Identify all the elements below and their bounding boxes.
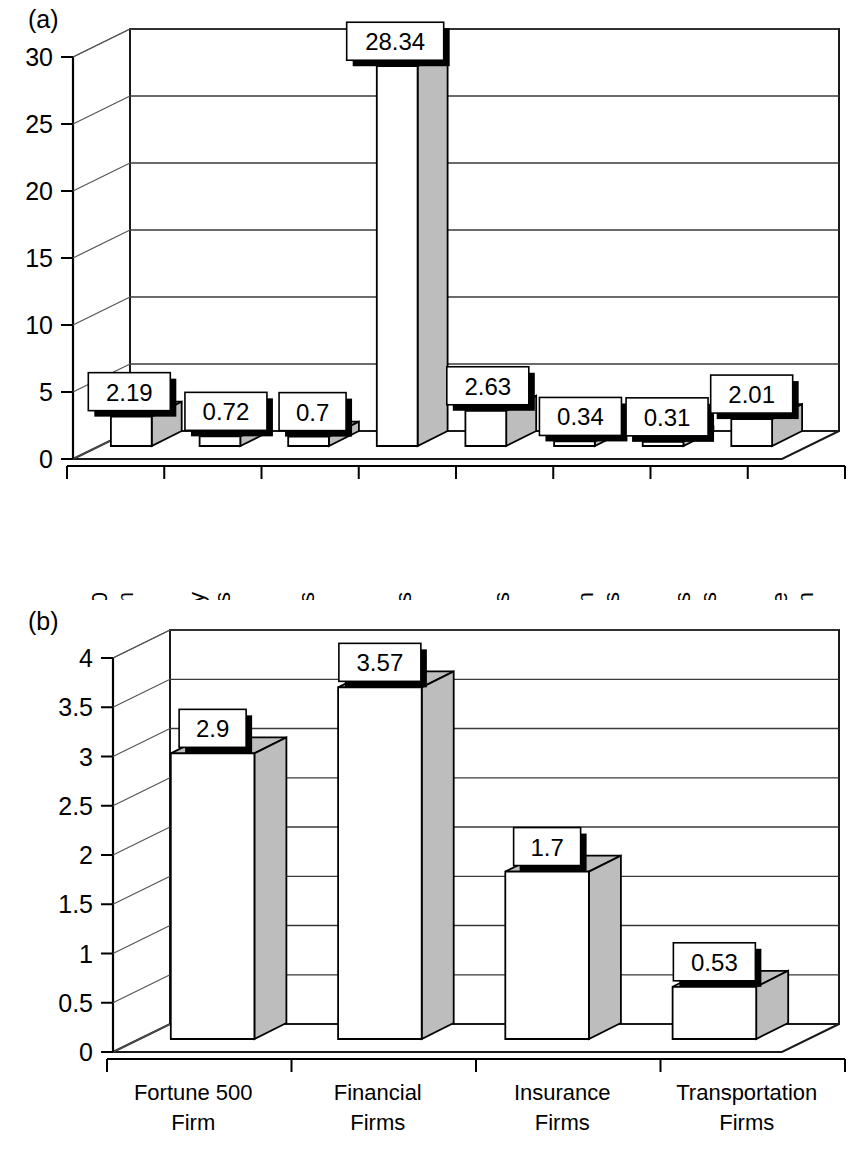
y-tick-label: 4 bbox=[79, 644, 93, 672]
category-label-line: Communications bbox=[670, 592, 695, 600]
value-callout-4: 0.53 bbox=[673, 943, 761, 987]
category-label-5: Insurance Firms bbox=[489, 592, 514, 600]
bar-front-face bbox=[554, 441, 595, 446]
gridline-depth bbox=[113, 778, 170, 806]
value-callout-2: 3.57 bbox=[339, 643, 427, 687]
bar-front-face bbox=[377, 66, 418, 446]
figure-page: 0510152025302.190.720.728.342.630.340.31… bbox=[0, 0, 863, 1161]
category-label-8: Southern StateLocation bbox=[767, 592, 818, 600]
category-label-1: Fortune 500Firm bbox=[87, 592, 138, 600]
y-tick-label: 2.5 bbox=[58, 792, 93, 820]
value-label: 2.19 bbox=[106, 379, 153, 406]
bar-side-face bbox=[589, 856, 621, 1039]
bar-front-face bbox=[200, 436, 241, 446]
value-label: 0.34 bbox=[557, 403, 604, 430]
category-label-line: Firms bbox=[719, 1110, 774, 1135]
category-label-4: Financial Firms bbox=[391, 592, 416, 600]
y-tick-label: 0 bbox=[79, 1038, 93, 1066]
bar-side-face bbox=[418, 51, 448, 446]
gridline-depth bbox=[73, 230, 130, 258]
category-label-3: Utilities Firms bbox=[294, 592, 319, 600]
category-label-line: Firm bbox=[113, 592, 138, 600]
value-callout-3: 1.7 bbox=[514, 828, 587, 872]
y-tick-label: 5 bbox=[39, 378, 53, 406]
category-label-line: Firms bbox=[535, 1110, 590, 1135]
gridline-depth bbox=[73, 29, 130, 57]
value-callout-1: 2.19 bbox=[88, 373, 176, 417]
panel-letter: (b) bbox=[28, 607, 59, 635]
y-tick-label: 1 bbox=[79, 940, 93, 968]
gridline-depth bbox=[113, 827, 170, 855]
bar-front-face bbox=[643, 442, 684, 446]
floor-left-edge bbox=[113, 1024, 170, 1052]
gridline-depth bbox=[113, 679, 170, 707]
y-axis: 051015202530 bbox=[25, 43, 73, 473]
value-label: 0.72 bbox=[203, 398, 250, 425]
category-label-line: Fortune 500 bbox=[134, 1080, 253, 1105]
category-label-line: Insurance Firms bbox=[489, 592, 514, 600]
gridline-depth bbox=[73, 163, 130, 191]
value-label: 3.57 bbox=[357, 649, 404, 676]
x-axis bbox=[107, 1059, 845, 1072]
value-label: 0.31 bbox=[644, 404, 691, 431]
category-label-line: Insurance bbox=[514, 1080, 611, 1105]
gridline-depth bbox=[113, 876, 170, 904]
category-label-line: Utilities Firms bbox=[294, 592, 319, 600]
value-callout-8: 2.01 bbox=[711, 375, 799, 419]
category-label-line: Southern State bbox=[767, 592, 792, 600]
y-tick-label: 20 bbox=[25, 177, 53, 205]
category-label-line: Fortune 500 bbox=[87, 592, 112, 600]
value-label: 28.34 bbox=[365, 28, 425, 55]
bar-front-face bbox=[731, 419, 772, 446]
floor-plane bbox=[73, 431, 839, 459]
bar-front-face bbox=[338, 687, 422, 1039]
category-label-2: FinancialFirms bbox=[334, 1080, 422, 1135]
category-label-3: InsuranceFirms bbox=[514, 1080, 611, 1135]
bar-1 bbox=[171, 737, 287, 1039]
value-label: 2.9 bbox=[196, 715, 229, 742]
gridline-depth bbox=[113, 630, 170, 658]
category-label-6: TransportationFirms bbox=[573, 592, 624, 600]
value-callout-6: 0.34 bbox=[539, 397, 627, 441]
category-label-4: TransportationFirms bbox=[676, 1080, 817, 1135]
value-callout-3: 0.7 bbox=[279, 393, 352, 437]
value-callout-2: 0.72 bbox=[185, 392, 273, 436]
bar-front-face bbox=[505, 872, 589, 1039]
y-axis: 00.511.522.533.54 bbox=[58, 644, 113, 1066]
y-tick-label: 25 bbox=[25, 110, 53, 138]
y-tick-label: 10 bbox=[25, 311, 53, 339]
value-callout-4: 28.34 bbox=[347, 22, 450, 66]
category-label-line: Financial bbox=[334, 1080, 422, 1105]
value-callout-5: 2.63 bbox=[447, 367, 535, 411]
category-label-line: Firms bbox=[210, 592, 235, 600]
category-label-line: High-Technology bbox=[184, 592, 209, 600]
gridline-depth bbox=[113, 926, 170, 954]
category-label-line: Transportation bbox=[676, 1080, 817, 1105]
bar-2 bbox=[338, 671, 454, 1039]
chart-a: 0510152025302.190.720.728.342.630.340.31… bbox=[0, 0, 863, 600]
y-tick-label: 15 bbox=[25, 244, 53, 272]
panel-letter: (a) bbox=[28, 5, 59, 33]
bar-3 bbox=[505, 856, 621, 1039]
value-label: 0.53 bbox=[691, 949, 738, 976]
gridlines bbox=[73, 29, 839, 392]
category-label-line: Firm bbox=[171, 1110, 215, 1135]
bar-4 bbox=[377, 51, 448, 446]
value-label: 1.7 bbox=[530, 834, 563, 861]
bar-front-face bbox=[171, 753, 255, 1039]
category-label-1: Fortune 500Firm bbox=[134, 1080, 253, 1135]
y-tick-label: 0.5 bbox=[58, 989, 93, 1017]
bar-side-face bbox=[422, 671, 454, 1039]
category-label-line: Firms bbox=[350, 1110, 405, 1135]
chart-b: 00.511.522.533.542.93.571.70.53Fortune 5… bbox=[0, 600, 863, 1161]
bar-front-face bbox=[111, 417, 152, 446]
category-label-line: Transportation bbox=[573, 592, 598, 600]
category-label-line: Financial Firms bbox=[391, 592, 416, 600]
gridline-depth bbox=[73, 96, 130, 124]
y-tick-label: 0 bbox=[39, 445, 53, 473]
bar-side-face bbox=[254, 737, 286, 1039]
y-tick-label: 3 bbox=[79, 743, 93, 771]
category-labels: Fortune 500FirmHigh-TechnologyFirmsUtili… bbox=[87, 592, 819, 600]
value-label: 2.63 bbox=[464, 373, 511, 400]
y-tick-label: 2 bbox=[79, 841, 93, 869]
